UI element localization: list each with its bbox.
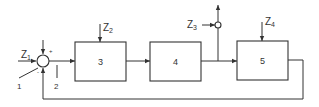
block-4-label: 4 xyxy=(173,57,178,67)
block-3-label: 3 xyxy=(98,57,103,67)
plus-sign: + xyxy=(49,48,53,54)
block-5-label: 5 xyxy=(260,56,265,66)
z1-label: Z1 xyxy=(21,49,31,61)
z3-junction-circle xyxy=(215,22,221,28)
summing-circle xyxy=(37,55,49,67)
callout-1-label: 1 xyxy=(17,82,22,91)
block-diagram: + - Z1 1 2 3 Z2 4 Z3 5 Z4 xyxy=(0,0,319,107)
minus-sign: - xyxy=(37,69,39,75)
callout-2-label: 2 xyxy=(54,82,59,91)
block-4: 4 xyxy=(150,42,201,81)
z2-label: Z2 xyxy=(103,22,113,34)
z3-label: Z3 xyxy=(187,19,197,31)
z4-label: Z4 xyxy=(265,16,275,28)
block-5: 5 xyxy=(237,41,288,80)
block-3: 3 xyxy=(75,42,126,81)
callout-1-leader xyxy=(19,68,38,78)
